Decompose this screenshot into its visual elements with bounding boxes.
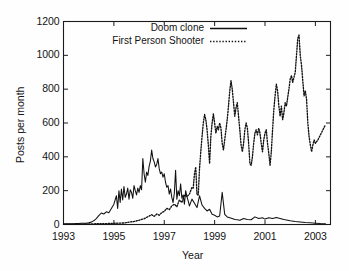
y-tick-label: 1200 [37,15,60,27]
y-tick-label: 0 [54,218,60,230]
y-tick-label: 1000 [37,48,60,60]
x-tick-label: 1999 [201,230,229,242]
x-tick-label: 2001 [251,230,279,242]
x-tick-label: 1997 [150,230,178,242]
series-line-first-person-shooter [64,35,326,224]
legend-label-doom-clone: Doom clone [151,22,204,33]
x-tick-label: 1995 [100,230,128,242]
y-axis-title: Posts per month [14,87,26,163]
legend-line-samples [210,29,247,42]
x-tick-label: 1993 [50,230,78,242]
legend-label-first-person-shooter: First Person Shooter [112,35,204,46]
y-tick-label: 400 [42,150,59,162]
series-line-doom-clone [64,150,326,224]
data-series-group [64,35,326,224]
chart-figure: 020040060080010001200 199319951997199920… [0,0,349,271]
y-tick-label: 600 [42,116,59,128]
y-tick-label: 800 [42,82,59,94]
x-tick-label: 2003 [301,230,329,242]
x-axis-title: Year [182,249,203,261]
y-tick-label: 200 [42,184,59,196]
